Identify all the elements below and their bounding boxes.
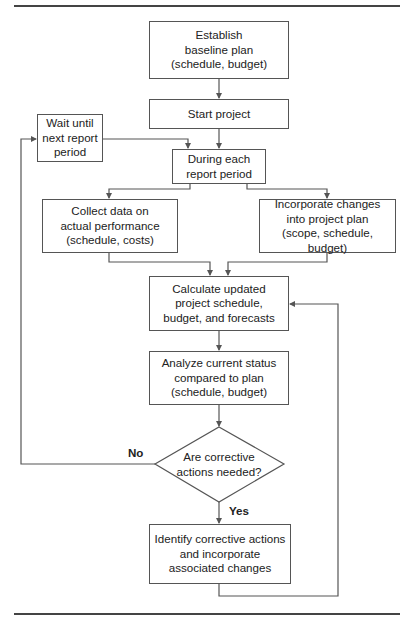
- incorporate-changes-box: Incorporate changes into project plan (s…: [259, 199, 396, 253]
- establish-baseline-text: Establish baseline plan (schedule, budge…: [171, 28, 267, 72]
- start-project-text: Start project: [188, 107, 251, 122]
- analyze-box: Analyze current status compared to plan …: [149, 351, 289, 405]
- no-label: No: [128, 446, 143, 459]
- collect-data-box: Collect data on actual performance (sche…: [42, 199, 178, 253]
- decision-text: Are corrective actions needed?: [165, 450, 273, 479]
- edge-incorporate-calculate: [228, 253, 327, 275]
- analyze-text: Analyze current status compared to plan …: [162, 356, 277, 400]
- during-box: During each report period: [172, 149, 266, 184]
- incorporate-changes-text: Incorporate changes into project plan (s…: [263, 197, 392, 255]
- wait-text: Wait until next report period: [42, 116, 97, 160]
- collect-data-text: Collect data on actual performance (sche…: [60, 204, 159, 248]
- edge-decision-wait: [21, 139, 155, 464]
- calculate-text: Calculate updated project schedule, budg…: [163, 282, 275, 326]
- start-project-box: Start project: [149, 99, 289, 129]
- edge-wait-during: [103, 139, 188, 148]
- identify-text: Identify corrective actions and incorpor…: [155, 532, 286, 576]
- identify-box: Identify corrective actions and incorpor…: [149, 524, 291, 584]
- yes-label: Yes: [229, 504, 249, 517]
- edge-during-incorporate: [247, 184, 327, 198]
- edge-during-collect: [109, 184, 190, 198]
- calculate-box: Calculate updated project schedule, budg…: [149, 276, 289, 331]
- during-text: During each report period: [186, 152, 252, 181]
- edge-collect-calculate: [109, 253, 210, 275]
- establish-baseline-box: Establish baseline plan (schedule, budge…: [149, 21, 289, 79]
- wait-box: Wait until next report period: [37, 114, 103, 162]
